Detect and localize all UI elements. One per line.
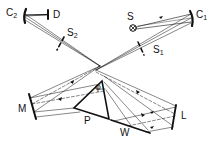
label-s1: S1 xyxy=(153,45,164,58)
label-w: W xyxy=(120,128,129,138)
diagram-drawing xyxy=(0,0,220,145)
source-s xyxy=(130,25,137,32)
label-p: P xyxy=(84,116,91,126)
prism-p xyxy=(74,81,109,119)
label-m: M xyxy=(18,104,26,114)
spectrometer-diagram: C2 D S2 S C1 S1 M P φ W L xyxy=(0,0,220,145)
label-phi: φ xyxy=(95,82,101,92)
label-s2: S2 xyxy=(67,28,78,41)
label-c2: C2 xyxy=(6,8,17,21)
label-d: D xyxy=(53,10,60,20)
label-s: S xyxy=(127,12,134,22)
mirror-w xyxy=(111,120,150,133)
label-l: L xyxy=(181,111,187,121)
label-c1: C1 xyxy=(196,10,207,23)
mirror-l xyxy=(172,105,176,129)
